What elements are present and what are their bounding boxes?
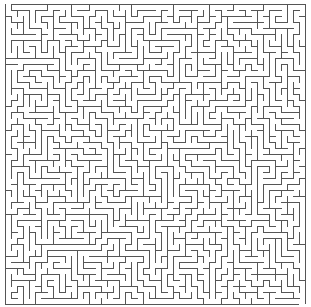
maze-grid	[0, 0, 311, 307]
maze	[0, 0, 311, 307]
maze-walls	[5, 4, 306, 305]
